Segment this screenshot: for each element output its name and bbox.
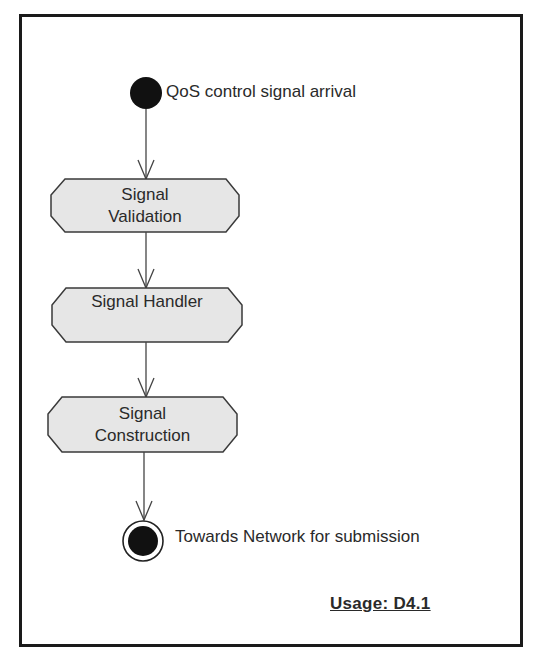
validation-line-1: Signal (121, 184, 168, 206)
handler-line-1: Signal Handler (91, 291, 203, 313)
edge-construction-end (136, 452, 152, 520)
end-label: Towards Network for submission (175, 527, 420, 547)
usage-reference: Usage: D4.1 (330, 594, 431, 614)
final-node-icon (123, 521, 163, 561)
validation-line-2: Validation (108, 206, 181, 228)
handler-label: Signal Handler (52, 288, 242, 316)
start-label: QoS control signal arrival (166, 82, 356, 102)
edge-handler-construction (138, 342, 154, 397)
construction-line-1: Signal (119, 403, 166, 425)
initial-node-icon (130, 77, 162, 109)
construction-line-2: Construction (95, 425, 190, 447)
construction-label: Signal Construction (48, 397, 237, 452)
edge-validation-handler (138, 232, 154, 288)
validation-label: Signal Validation (51, 179, 239, 232)
edge-start-validation (138, 109, 154, 179)
